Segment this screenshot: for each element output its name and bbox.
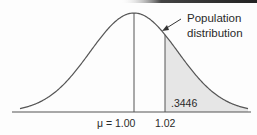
shaded-area-value: .3446 bbox=[171, 97, 197, 109]
scan-edge-bar bbox=[120, 0, 257, 3]
mean-label: μ = 1.00 bbox=[97, 117, 136, 129]
cutoff-label: 1.02 bbox=[155, 117, 176, 129]
annotation-line1: Population bbox=[187, 12, 241, 24]
normal-distribution-figure: Population distribution .3446 μ = 1.00 1… bbox=[0, 0, 257, 135]
arrowhead-icon bbox=[162, 25, 169, 31]
annotation-line2: distribution bbox=[187, 27, 243, 39]
chart-canvas: Population distribution .3446 μ = 1.00 1… bbox=[0, 0, 257, 135]
